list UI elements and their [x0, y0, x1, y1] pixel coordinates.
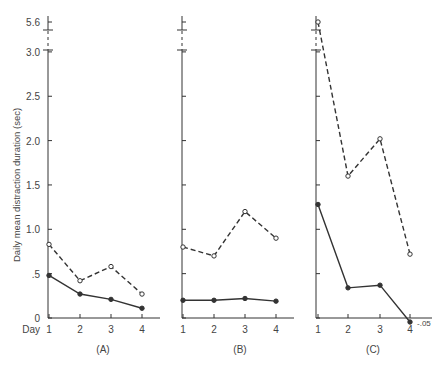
- y-tick-label: 1.0: [26, 224, 40, 235]
- x-tick-label: 3: [377, 324, 383, 335]
- filled-circle-marker: [212, 298, 216, 302]
- open-circle-marker: [181, 245, 185, 249]
- x-tick-label: 4: [273, 324, 279, 335]
- panel-label: (B): [233, 344, 246, 355]
- open-circle-marker: [408, 252, 412, 256]
- panel-label: (C): [366, 344, 380, 355]
- panel-label: (A): [96, 344, 109, 355]
- filled-circle-marker: [78, 292, 82, 296]
- open-circle-marker: [212, 254, 216, 258]
- y-tick-label: 2.5: [26, 91, 40, 102]
- filled-circle-marker: [378, 283, 382, 287]
- distraction-duration-chart: 1234(A)1234(B)1234(C)-.050.51.01.52.02.5…: [0, 0, 446, 367]
- open-circle-marker: [78, 279, 82, 283]
- filled-circle-marker: [140, 306, 144, 310]
- y-tick-label: 5.6: [26, 17, 40, 28]
- x-tick-label: 4: [407, 324, 413, 335]
- filled-circle-marker: [274, 299, 278, 303]
- y-tick-label: 3.0: [26, 47, 40, 58]
- open-circle-marker: [316, 20, 320, 24]
- x-axis-label: Day: [22, 324, 40, 335]
- solid-series-line: [318, 204, 410, 322]
- x-tick-label: 1: [46, 324, 52, 335]
- filled-circle-marker: [408, 320, 412, 324]
- x-tick-label: 3: [108, 324, 114, 335]
- solid-series-line: [183, 298, 276, 301]
- x-tick-label: 2: [345, 324, 351, 335]
- open-circle-marker: [243, 209, 247, 213]
- open-circle-marker: [109, 264, 113, 268]
- y-axis-title: Daily mean distraction duration (sec): [11, 108, 22, 262]
- y-tick-label: 0: [34, 313, 40, 324]
- open-circle-marker: [140, 292, 144, 296]
- open-circle-marker: [274, 236, 278, 240]
- y-tick-label: .5: [32, 269, 41, 280]
- x-tick-label: 2: [77, 324, 83, 335]
- filled-circle-marker: [243, 296, 247, 300]
- x-tick-label: 3: [242, 324, 248, 335]
- open-circle-marker: [378, 137, 382, 141]
- open-circle-marker: [346, 174, 350, 178]
- annotation-label: -.05: [417, 319, 431, 328]
- x-tick-label: 1: [180, 324, 186, 335]
- dashed-series-line: [183, 212, 276, 256]
- x-tick-label: 1: [315, 324, 321, 335]
- filled-circle-marker: [346, 286, 350, 290]
- open-circle-marker: [47, 242, 51, 246]
- solid-series-line: [49, 275, 142, 308]
- dashed-series-line: [49, 244, 142, 294]
- filled-circle-marker: [109, 297, 113, 301]
- dashed-series-line: [318, 22, 410, 254]
- y-tick-label: 2.0: [26, 136, 40, 147]
- x-tick-label: 4: [139, 324, 145, 335]
- filled-circle-marker: [181, 298, 185, 302]
- filled-circle-marker: [316, 202, 320, 206]
- y-tick-label: 1.5: [26, 180, 40, 191]
- x-tick-label: 2: [211, 324, 217, 335]
- filled-circle-marker: [47, 273, 51, 277]
